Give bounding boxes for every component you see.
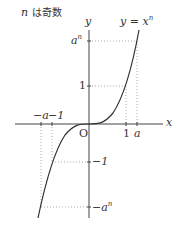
neg-a-base: −a bbox=[92, 201, 108, 214]
eq-exp: n bbox=[149, 14, 154, 22]
tick-y-1: 1 bbox=[79, 80, 86, 91]
x-axis-label: x bbox=[166, 117, 172, 128]
n-var: n bbox=[21, 6, 28, 19]
tick-a-n: an bbox=[71, 34, 82, 46]
equation-label: y = xn bbox=[120, 15, 153, 27]
y-axis-label: y bbox=[85, 16, 91, 27]
tick-neg-1: −1 bbox=[48, 110, 64, 121]
tick-neg-a: −a bbox=[33, 110, 49, 121]
eq-sign: = bbox=[126, 15, 142, 28]
tick-y-neg-1: −1 bbox=[92, 156, 108, 167]
condition-text: は奇数 bbox=[32, 7, 62, 18]
graph-canvas bbox=[0, 0, 180, 233]
neg-a-exp: n bbox=[108, 200, 113, 208]
tick-x-1: 1 bbox=[123, 128, 130, 139]
tick-neg-a-n: −an bbox=[92, 201, 112, 213]
a-exp: n bbox=[78, 33, 83, 41]
tick-a: a bbox=[134, 128, 141, 139]
origin-label: O bbox=[79, 128, 88, 139]
condition-label: n は奇数 bbox=[21, 7, 62, 18]
